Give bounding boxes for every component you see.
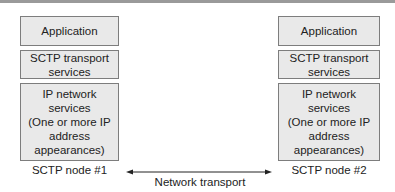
- node2-label: SCTP node #2: [278, 164, 380, 176]
- top-border: [0, 0, 395, 3]
- node2-sctp-layer: SCTP transport services: [278, 50, 380, 79]
- node1-ip-layer: IP network services (One or more IP addr…: [20, 83, 119, 161]
- network-transport-label: Network transport: [140, 176, 260, 188]
- node2-ip-layer: IP network services (One or more IP addr…: [278, 83, 380, 161]
- node1-application-layer: Application: [20, 16, 119, 46]
- node2-application-layer: Application: [278, 16, 380, 46]
- node1-label: SCTP node #1: [20, 164, 119, 176]
- node1-sctp-layer: SCTP transport services: [20, 50, 119, 79]
